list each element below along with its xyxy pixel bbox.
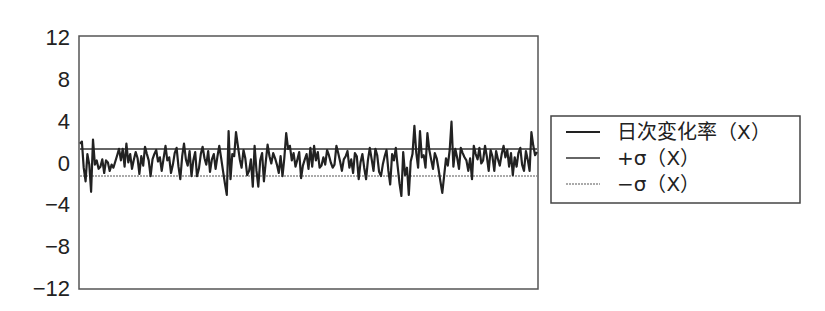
y-tick-label: 4 [58,109,70,134]
legend-label: −σ（X） [617,172,700,196]
y-tick-label: 8 [58,67,70,92]
y-tick-label: 12 [46,25,70,50]
y-tick-label: −8 [45,234,70,259]
y-tick-label: −12 [33,276,70,301]
y-tick-label: 0 [58,151,70,176]
legend-label: +σ（X） [617,146,700,170]
legend: 日次変化率（X）+σ（X）−σ（X） [551,116,800,203]
y-tick-label: −4 [45,192,70,217]
legend-label: 日次変化率（X） [617,120,771,144]
line-chart: 12840−4−8−12 日次変化率（X）+σ（X）−σ（X） [0,0,825,311]
y-axis-labels: 12840−4−8−12 [33,25,70,301]
